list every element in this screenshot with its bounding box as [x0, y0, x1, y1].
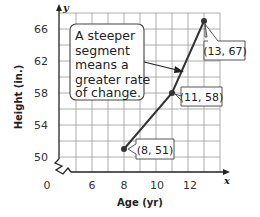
x-tick-label: 6	[89, 179, 96, 192]
callout-line: means a	[75, 57, 129, 72]
y-axis-title: Height (in.)	[13, 65, 24, 130]
svg-text:(11, 58): (11, 58)	[180, 91, 224, 104]
y-tick-label: 62	[34, 55, 48, 68]
y-axis-letter: y	[62, 2, 70, 13]
x-axis-letter: x	[223, 175, 231, 186]
data-point	[169, 90, 175, 96]
y-tick-label: 58	[34, 87, 48, 100]
point-label-11-58: (11, 58)	[175, 87, 223, 106]
callout-line: A steeper	[75, 28, 136, 43]
data-point	[201, 18, 207, 24]
callout-line: segment	[75, 43, 130, 58]
callout-annotation: A steeper segment means a greater rate o…	[70, 24, 184, 100]
x-axis-title: Age (yr)	[117, 197, 163, 208]
callout-line: of change.	[75, 85, 141, 100]
svg-text:(8, 51): (8, 51)	[137, 144, 174, 157]
svg-text:(13, 67): (13, 67)	[203, 45, 247, 58]
chart: y x 50 54 58 62 66 0 6 8 10 12 Age (yr) …	[0, 0, 260, 217]
x-tick-label: 12	[183, 179, 197, 192]
y-tick-label: 66	[34, 23, 48, 36]
origin-label: 0	[44, 179, 51, 192]
x-tick-label: 8	[121, 179, 128, 192]
x-tick-label: 10	[150, 179, 164, 192]
point-label-8-51: (8, 51)	[128, 139, 174, 159]
y-axis-break	[55, 159, 71, 174]
y-tick-label: 54	[34, 119, 48, 132]
data-point	[121, 146, 127, 152]
y-tick-label: 50	[34, 151, 48, 164]
x-tick-labels: 0 6 8 10 12	[44, 179, 198, 192]
y-tick-labels: 50 54 58 62 66	[34, 23, 48, 164]
y-axis-arrow-icon	[56, 4, 62, 11]
